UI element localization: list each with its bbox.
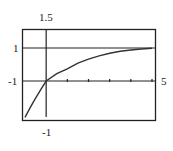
xmin-label: -1	[8, 76, 17, 87]
xmax-label: 5	[161, 76, 167, 87]
ymax-label: 1.5	[39, 12, 53, 23]
asymptote-label: 1	[13, 43, 19, 54]
graph-plot	[0, 0, 173, 151]
ymin-label: -1	[42, 127, 51, 138]
data-curve	[25, 48, 152, 117]
plot-frame	[23, 30, 156, 121]
